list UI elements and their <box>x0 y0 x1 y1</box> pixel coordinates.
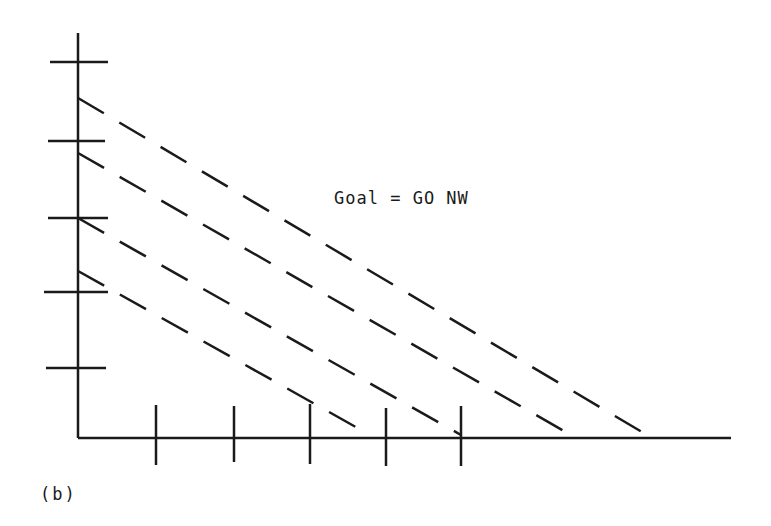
x-ticks <box>156 404 461 466</box>
dashed-line-3 <box>78 218 461 435</box>
dashed-line-2 <box>78 153 571 435</box>
dashed-line-4 <box>78 271 370 435</box>
diagram-canvas <box>0 0 771 526</box>
dashed-lines <box>78 98 647 435</box>
figure-label: (b) <box>40 484 77 504</box>
goal-annotation: Goal = GO NW <box>334 188 469 208</box>
y-ticks <box>44 62 108 368</box>
